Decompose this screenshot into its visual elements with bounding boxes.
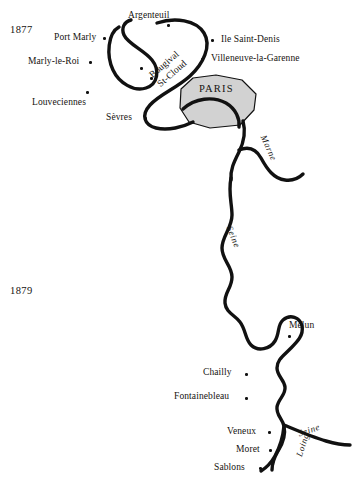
place-dot-st-cloud [150,77,153,80]
place-label-veneux: Veneux [227,427,256,437]
place-dot-veneux [268,431,271,434]
place-dot-port-marly [103,37,106,40]
place-dot-melun [288,335,291,338]
place-label-port-marly: Port Marly [54,33,96,43]
place-dot-sevres [144,117,147,120]
region-label-paris: PARIS [199,84,234,95]
place-dot-fontainebleau [245,397,248,400]
place-label-ile-saint-denis: Ile Saint-Denis [221,35,280,45]
place-label-sevres: Sèvres [106,113,132,123]
place-dot-ile-saint-denis [211,39,214,42]
place-dot-louveciennes [86,91,89,94]
year-label-1877: 1877 [10,25,33,36]
place-label-marly-le-roi: Marly-le-Roi [28,57,79,67]
place-dot-chailly [245,373,248,376]
place-dot-villeneuve-la-garenne [201,58,204,61]
place-dot-moret [269,449,272,452]
year-label-1879: 1879 [10,286,33,297]
place-label-argenteuil: Argenteuil [128,11,169,21]
place-dot-marly-le-roi [89,61,92,64]
place-dot-bougival [140,67,143,70]
seine-region-map: 1877 1879 PARIS Argenteuil Port Marly Il… [0,0,352,485]
place-label-chailly: Chailly [203,368,232,378]
place-label-villeneuve-la-garenne: Villeneuve-la-Garenne [211,54,300,64]
place-dot-sablons [259,467,262,470]
place-label-melun: Melun [289,321,314,331]
place-dot-argenteuil [167,24,170,27]
place-label-sablons: Sablons [214,463,245,473]
place-label-louveciennes: Louveciennes [32,98,86,108]
place-label-fontainebleau: Fontainebleau [174,392,229,402]
place-label-moret: Moret [236,445,260,455]
